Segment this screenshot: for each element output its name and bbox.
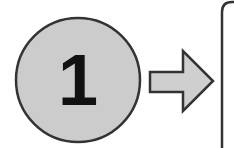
right-arrow-icon — [150, 51, 213, 111]
step-number: 1 — [16, 18, 140, 142]
content-panel — [222, 2, 234, 148]
